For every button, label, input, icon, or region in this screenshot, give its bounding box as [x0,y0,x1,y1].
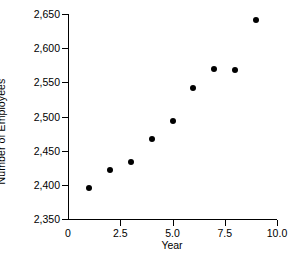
y-tick [62,14,68,15]
y-axis-line [68,14,69,220]
y-tick-label: 2,650 [8,8,60,20]
x-tick-label: 0 [48,227,88,239]
data-point [190,85,196,91]
y-axis-title-text: Number of Employees [0,79,7,185]
data-point [170,118,176,124]
y-tick [62,185,68,186]
scatter-chart: Number of Employees Year 2,3502,4002,450… [0,0,298,263]
x-tick [225,220,226,226]
x-tick-label: 5.0 [153,227,193,239]
data-point [128,159,134,165]
data-point [232,67,238,73]
data-point [253,17,259,23]
y-tick-label: 2,550 [8,76,60,88]
x-tick [277,220,278,226]
data-point [211,66,217,72]
x-tick [173,220,174,226]
x-tick-label: 2.5 [100,227,140,239]
y-tick [62,151,68,152]
y-tick-label: 2,400 [8,179,60,191]
x-tick-label: 7.5 [205,227,245,239]
y-tick-label: 2,600 [8,42,60,54]
data-point [86,185,92,191]
y-tick [62,82,68,83]
y-tick-label: 2,500 [8,111,60,123]
data-point [149,136,155,142]
y-tick [62,117,68,118]
y-tick-label: 2,350 [8,213,60,225]
x-axis-title: Year [68,239,276,251]
y-tick [62,48,68,49]
y-tick-label: 2,450 [8,145,60,157]
data-point [107,167,113,173]
y-tick [62,219,68,220]
x-tick [120,220,121,226]
x-tick-label: 10.0 [257,227,297,239]
